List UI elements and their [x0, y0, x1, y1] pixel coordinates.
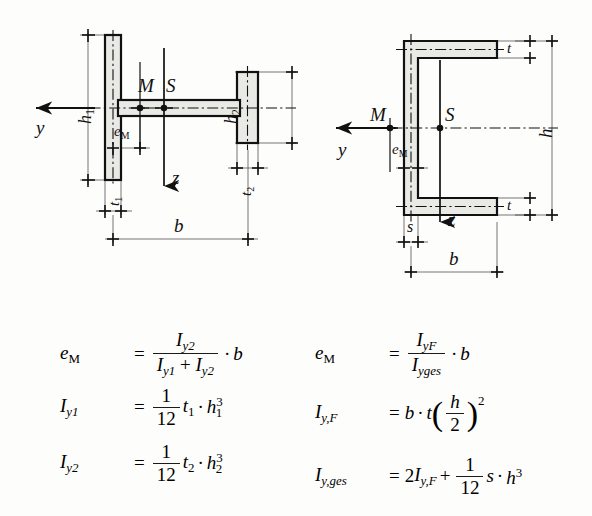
formula-channel-Iyges-lhs: Iy,ges — [315, 464, 389, 489]
fraction-denominator: 12 — [456, 477, 483, 498]
formula-channel-IyF-fraction: h 2 — [446, 392, 464, 435]
channel-height-label: h — [536, 129, 555, 139]
formula-channel-IyF-paren-group: ( h 2 ) 2 — [432, 392, 485, 435]
fraction-numerator: h — [446, 392, 464, 413]
formula-channel-eM-fraction: IyF Iyges — [408, 330, 445, 378]
formula-tee-eM: eM = Iy2 Iy1 + Iy2 · b — [60, 330, 243, 378]
dot-operator: · — [497, 465, 503, 487]
dot-operator: · — [451, 343, 457, 365]
formula-tee-Iy1-rhs: 1 12 t1 · h31 — [150, 386, 222, 429]
channel-bottom-flange-thickness-label: t — [507, 198, 511, 213]
tee-right-flange-thickness-label: t2 — [239, 187, 256, 196]
plus-operator: + — [440, 465, 451, 487]
formula-tee-Iy2-rhs: 1 12 t2 · h32 — [150, 442, 222, 485]
channel-centroid-label: S — [445, 105, 455, 124]
tee-eccentricity-label: eM — [114, 124, 129, 141]
left-paren-icon: ( — [432, 400, 443, 428]
dot-operator: · — [417, 402, 423, 424]
formula-channel-IyF-lhs: Iy,F — [315, 401, 389, 426]
formula-tee-Iy1-term1: t1 — [183, 395, 195, 420]
fraction-denominator: 12 — [153, 464, 180, 485]
tee-section-drawing — [0, 0, 300, 270]
formula-channel-IyF: Iy,F = b · t ( h 2 ) 2 — [315, 392, 484, 435]
formula-tee-Iy2-lhs: Iy2 — [60, 451, 134, 476]
formula-tee-eM-denominator: Iy1 + Iy2 — [153, 354, 218, 377]
tee-right-flange-height-label: h2 — [222, 109, 243, 124]
tee-left-flange-thickness-label: t1 — [107, 197, 124, 206]
formula-channel-eM-lhs: eM — [315, 342, 389, 367]
dot-operator: · — [197, 452, 203, 474]
fraction-numerator: 1 — [461, 455, 479, 476]
dot-operator: · — [197, 396, 203, 418]
fraction-denominator: 12 — [153, 408, 180, 429]
fraction-numerator: 1 — [157, 442, 175, 463]
fraction-denominator: 2 — [446, 414, 464, 435]
channel-y-axis-label: y — [338, 140, 346, 159]
channel-z-axis-label: z — [448, 210, 455, 229]
formula-tee-eM-fraction: Iy2 Iy1 + Iy2 — [153, 330, 218, 378]
formula-channel-Iyges-term1: Iy,F — [414, 464, 436, 489]
formula-tee-Iy1-fraction: 1 12 — [153, 386, 180, 429]
tee-centroid-label: S — [166, 76, 176, 95]
formula-channel-IyF-exponent: 2 — [478, 393, 485, 409]
formula-channel-eM-relation: = — [389, 343, 400, 365]
formula-channel-eM: eM = IyF Iyges · b — [315, 330, 470, 378]
tee-z-axis-label: z — [172, 168, 179, 187]
formula-channel-eM-rhs: IyF Iyges · b — [405, 330, 470, 378]
channel-top-flange-thickness-label: t — [507, 41, 511, 56]
fraction-numerator: 1 — [157, 386, 175, 407]
channel-width-label: b — [449, 249, 459, 268]
formula-channel-Iyges-term2: s — [486, 465, 493, 487]
formula-tee-Iy2: Iy2 = 1 12 t2 · h32 — [60, 442, 222, 485]
formula-tee-eM-relation: = — [134, 343, 145, 365]
channel-centroid-point — [437, 125, 444, 132]
formula-channel-Iyges-rhs: 2 Iy,F + 1 12 s · h3 — [405, 455, 522, 498]
dot-operator: · — [224, 343, 230, 365]
tee-y-axis-label: y — [36, 118, 44, 137]
formula-tee-Iy1-relation: = — [134, 396, 145, 418]
formula-channel-IyF-term1: b — [405, 402, 415, 424]
formula-channel-Iyges: Iy,ges = 2 Iy,F + 1 12 s · h3 — [315, 455, 522, 498]
formula-tee-Iy1-term2: h31 — [207, 394, 222, 421]
formula-tee-eM-rhs: Iy2 Iy1 + Iy2 · b — [150, 330, 243, 378]
formula-channel-Iyges-coefficient: 2 — [405, 465, 415, 487]
formula-channel-IyF-rhs: b · t ( h 2 ) 2 — [405, 392, 485, 435]
tee-left-flange-height-label: h1 — [76, 109, 97, 124]
channel-web-thickness-label: s — [407, 219, 413, 235]
tee-section-figure: y z M S eM h1 h2 t2 t1 b — [0, 0, 300, 270]
channel-shear-centre-label: M — [370, 105, 386, 124]
formula-tee-Iy2-fraction: 1 12 — [153, 442, 180, 485]
formula-tee-Iy2-term1: t2 — [183, 451, 195, 476]
channel-section-figure: y z M S eM t t h s b — [300, 0, 592, 280]
formula-tee-Iy1-lhs: Iy1 — [60, 395, 134, 420]
figure-page: y z M S eM h1 h2 t2 t1 b — [0, 0, 592, 516]
tee-width-label: b — [174, 216, 184, 235]
formula-channel-Iyges-fraction: 1 12 — [456, 455, 483, 498]
formula-tee-eM-lhs: eM — [60, 342, 134, 367]
formula-tee-eM-multiplier: b — [233, 343, 243, 365]
formula-channel-eM-multiplier: b — [460, 343, 470, 365]
formula-channel-eM-numerator: IyF — [412, 330, 440, 353]
formula-channel-IyF-relation: = — [389, 402, 400, 424]
formula-tee-Iy1: Iy1 = 1 12 t1 · h31 — [60, 386, 222, 429]
formula-tee-Iy2-relation: = — [134, 452, 145, 474]
formula-tee-Iy2-term2: h32 — [207, 450, 222, 477]
tee-shear-centre-label: M — [138, 76, 154, 95]
formula-tee-eM-numerator: Iy2 — [172, 330, 199, 353]
channel-eccentricity-label: eM — [392, 142, 407, 159]
formula-channel-Iyges-term3: h3 — [506, 465, 522, 489]
right-paren-icon: ) — [467, 400, 478, 428]
formula-channel-Iyges-relation: = — [389, 465, 400, 487]
formula-channel-eM-denominator: Iyges — [408, 354, 445, 377]
